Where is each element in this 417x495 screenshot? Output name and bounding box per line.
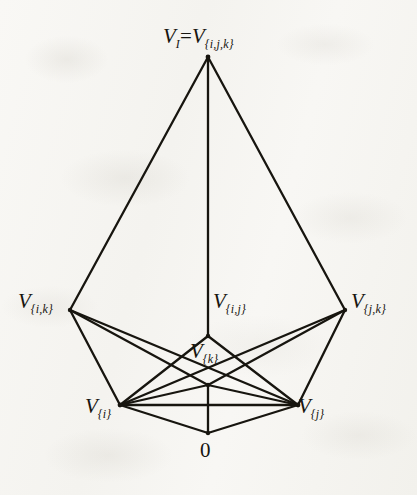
edge-group	[70, 57, 345, 433]
label-ik-v: V	[18, 289, 31, 313]
label-ij-v: V	[213, 289, 226, 313]
label-top-v: V	[163, 24, 176, 48]
vertex-top	[206, 55, 211, 60]
label-jk-subscript: {j,k}	[364, 302, 386, 316]
node-label-j: V{j}	[298, 396, 324, 420]
edge-top-jk	[208, 57, 345, 310]
vertex-ik	[68, 308, 72, 312]
node-label-top: VI=V{i,j,k}	[163, 26, 234, 50]
label-k-v: V	[190, 339, 203, 363]
vertex-zero	[206, 431, 210, 435]
edge-jk-k	[208, 310, 345, 385]
label-i-subscript: {i}	[98, 407, 112, 421]
label-top-v2: V	[192, 24, 205, 48]
node-label-zero: 0	[200, 440, 211, 461]
vertex-k	[206, 383, 210, 387]
label-k-subscript: {k}	[203, 352, 219, 366]
label-zero-text: 0	[200, 438, 211, 462]
node-label-i: V{i}	[85, 396, 111, 420]
node-label-jk: V{j,k}	[351, 291, 386, 315]
edge-top-ik	[70, 57, 208, 310]
label-jk-v: V	[351, 289, 364, 313]
label-i-v: V	[85, 394, 98, 418]
vertex-ij	[206, 334, 210, 338]
label-top-equals: =	[180, 24, 192, 48]
label-j-v: V	[298, 394, 311, 418]
node-label-ij: V{i,j}	[213, 291, 246, 315]
figure-canvas: VI=V{i,j,k} V{i,k} V{i,j} V{j,k} V{k} V{…	[0, 0, 417, 495]
vertex-jk	[343, 308, 347, 312]
edge-jk-j	[298, 310, 345, 405]
label-top-subscript: {i,j,k}	[205, 37, 234, 51]
node-label-k: V{k}	[190, 341, 218, 365]
node-label-ik: V{i,k}	[18, 291, 53, 315]
label-ij-subscript: {i,j}	[226, 302, 246, 316]
hasse-diagram-graph	[0, 0, 417, 495]
edge-i-zero	[120, 405, 208, 433]
vertex-i	[118, 403, 123, 408]
edge-j-zero	[208, 405, 298, 433]
label-j-subscript: {j}	[311, 407, 325, 421]
label-ik-subscript: {i,k}	[31, 302, 53, 316]
